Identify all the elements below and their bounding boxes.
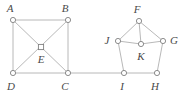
graph-canvas [0,0,188,96]
vertex-G [160,38,165,43]
vertices-layer [10,17,165,75]
vertex-H [154,70,159,75]
edge-K-J [118,41,141,44]
vertex-label-D: D [7,81,15,92]
vertex-label-H: H [151,81,159,92]
vertex-label-E: E [38,54,45,65]
edge-J-I [118,41,124,73]
vertex-label-C: C [61,81,68,92]
vertex-label-B: B [62,3,69,14]
vertex-I [121,70,126,75]
graph-figure: ABCDEFGHIJK [0,0,188,96]
vertex-label-K: K [137,51,144,62]
vertex-A [10,17,15,22]
vertex-E [38,44,43,49]
vertex-label-A: A [7,3,14,14]
edge-F-G [139,21,163,41]
vertex-J [115,38,120,43]
vertex-label-G: G [170,35,178,46]
edge-F-J [118,21,139,41]
vertex-D [10,70,15,75]
vertex-B [65,17,70,22]
vertex-label-J: J [105,35,110,46]
vertex-F [136,18,141,23]
vertex-K [138,41,143,46]
vertex-C [65,70,70,75]
vertex-label-F: F [134,4,141,15]
edge-G-H [157,41,163,73]
edge-K-F [139,21,141,44]
edge-K-G [141,41,163,44]
vertex-label-I: I [120,81,124,92]
